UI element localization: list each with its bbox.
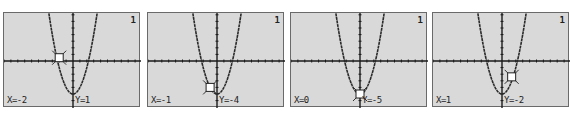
y-coordinate-label: Y=1 bbox=[75, 95, 90, 105]
plot-number: 1 bbox=[131, 15, 136, 25]
graph-canvas bbox=[148, 13, 285, 108]
calculator-screen-4: 1 X=1 Y=-2 bbox=[432, 12, 569, 107]
y-coordinate-label: Y=-2 bbox=[504, 95, 524, 105]
calculator-screen-2: 1 X=-1 Y=-4 bbox=[147, 12, 284, 107]
x-coordinate-label: X=0 bbox=[294, 95, 309, 105]
graph-canvas bbox=[291, 13, 428, 108]
trace-cursor-icon bbox=[203, 80, 217, 94]
graph-canvas bbox=[433, 13, 570, 108]
plot-number: 1 bbox=[560, 15, 565, 25]
graph-canvas bbox=[4, 13, 141, 108]
plot-number: 1 bbox=[275, 15, 280, 25]
calculator-screen-3: 1 X=0 Y=-5 bbox=[290, 12, 427, 107]
x-coordinate-label: X=-2 bbox=[7, 95, 27, 105]
x-coordinate-label: X=1 bbox=[436, 95, 451, 105]
calculator-screen-1: 1 X=-2 Y=1 bbox=[3, 12, 140, 107]
y-coordinate-label: Y=-4 bbox=[219, 95, 239, 105]
trace-cursor-icon bbox=[52, 51, 66, 65]
plot-number: 1 bbox=[418, 15, 423, 25]
x-coordinate-label: X=-1 bbox=[151, 95, 171, 105]
y-coordinate-label: Y=-5 bbox=[362, 95, 382, 105]
